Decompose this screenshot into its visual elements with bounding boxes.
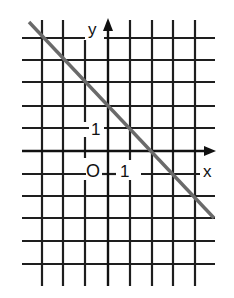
coordinate-graph: y x O 1 1	[0, 0, 234, 298]
y-unit-label: 1	[91, 120, 100, 139]
y-axis-arrow-icon	[103, 18, 113, 31]
plotted-line	[29, 22, 214, 218]
origin-label: O	[86, 161, 100, 181]
x-axis-label: x	[203, 162, 212, 181]
y-axis-label: y	[88, 20, 97, 39]
x-axis-arrow-icon	[204, 146, 216, 156]
axes	[22, 18, 216, 286]
x-unit-label: 1	[120, 162, 129, 181]
